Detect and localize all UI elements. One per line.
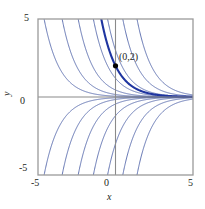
y-tick-label-bottom: -5 (19, 163, 27, 173)
figure-container: 5 0 -5 -5 0 5 y x (0,2) (0, 0, 205, 209)
x-tick-label-mid: 0 (104, 178, 109, 188)
point-annotation-label: (0,2) (119, 52, 138, 62)
x-tick-label-right: 5 (188, 178, 193, 188)
x-axis-title: x (107, 192, 111, 202)
y-tick-label-top: 5 (24, 13, 29, 23)
y-axis-title: y (2, 92, 12, 96)
y-tick-label-mid: 0 (20, 96, 25, 106)
x-tick-label-left: -5 (31, 178, 39, 188)
initial-condition-dot (113, 63, 118, 68)
point-marker-0-2 (113, 63, 118, 68)
